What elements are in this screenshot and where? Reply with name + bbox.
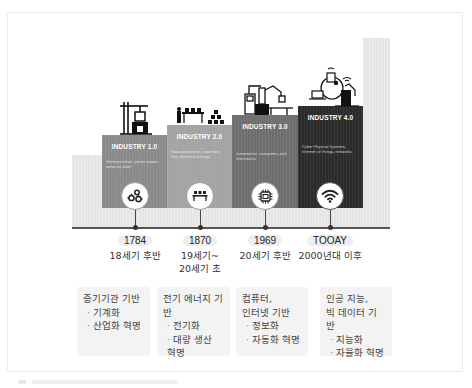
industry-1-description: Mechanization, steam power, weaving loom bbox=[106, 160, 163, 170]
year-label-2: 1870 bbox=[165, 235, 235, 246]
stage-box-4-basis-line-1: 인공 지능, bbox=[326, 292, 386, 306]
iot-network-illustration bbox=[305, 66, 361, 108]
stage-box-4-basis-line-2: 빅 데이터 기반 bbox=[326, 306, 386, 333]
stage-box-4-bullet-2: 자율화 혁명 bbox=[326, 346, 386, 360]
year-1: 1784 bbox=[118, 235, 152, 246]
year-4: TOOAY bbox=[307, 235, 353, 246]
wifi-icon bbox=[321, 189, 339, 203]
era-label-2-line-2: 20세기 초 bbox=[160, 262, 240, 275]
footer-caption-placeholder bbox=[18, 380, 178, 384]
node-industry-1 bbox=[121, 182, 149, 210]
assembly-line-icon bbox=[192, 190, 208, 202]
industry-3-description: Automation, computers and electronics bbox=[236, 152, 294, 162]
industry-2-description: Mass production, assembly line, electric… bbox=[171, 150, 228, 160]
stage-box-1: 증기기관 기반 기계화 산업화 혁명 bbox=[77, 287, 150, 356]
stage-box-3-basis-line-2: 인터넷 기반 bbox=[242, 306, 302, 320]
base-step-right bbox=[363, 38, 390, 228]
stage-box-3: 컴퓨터, 인터넷 기반 정보화 자동화 혁명 bbox=[236, 287, 308, 356]
stage-box-2: 전기 에너지 기반 전기화 대량 생산 혁명 bbox=[157, 287, 230, 356]
stage-box-1-bullet-1: 기계화 bbox=[83, 306, 144, 320]
stage-box-2-bullet-2: 대량 생산 혁명 bbox=[163, 333, 224, 360]
stage-box-1-bullet-2: 산업화 혁명 bbox=[83, 319, 144, 333]
industry-4-description: Cyber Physical Systems, internet of thin… bbox=[302, 145, 359, 155]
robot-arm-illustration bbox=[243, 82, 295, 116]
steam-crane-illustration bbox=[118, 98, 154, 136]
stage-box-2-basis: 전기 에너지 기반 bbox=[163, 293, 223, 318]
year-label-1: 1784 bbox=[100, 235, 170, 246]
stage-box-1-basis: 증기기관 기반 bbox=[83, 293, 140, 304]
stage-box-4-bullet-1: 지능화 bbox=[326, 333, 386, 347]
stage-box-3-bullet-2: 자동화 혁명 bbox=[242, 333, 302, 347]
era-label-4: 2000년대 이후 bbox=[290, 249, 370, 262]
industry-4-title: INDUSTRY 4.0 bbox=[304, 114, 356, 121]
year-2: 1870 bbox=[183, 235, 217, 246]
base-step-middle bbox=[102, 208, 364, 228]
industry-2-title: INDUSTRY 2.0 bbox=[173, 133, 225, 140]
microchip-icon bbox=[258, 189, 273, 204]
node-industry-4 bbox=[316, 182, 344, 210]
timeline-dot-3 bbox=[263, 225, 268, 230]
stage-box-3-bullet-1: 정보화 bbox=[242, 319, 302, 333]
timeline-dot-4 bbox=[328, 225, 333, 230]
stage-box-2-bullet-1: 전기화 bbox=[163, 319, 224, 333]
gears-icon bbox=[127, 189, 143, 203]
node-industry-3 bbox=[251, 182, 279, 210]
timeline-dot-1 bbox=[133, 225, 138, 230]
year-label-3: 1969 bbox=[230, 235, 300, 246]
stage-box-3-basis-line-1: 컴퓨터, bbox=[242, 292, 302, 306]
assembly-line-illustration bbox=[175, 106, 225, 124]
year-label-4: TOOAY bbox=[295, 235, 365, 246]
timeline-line bbox=[72, 227, 390, 229]
stage-box-4: 인공 지능, 빅 데이터 기반 지능화 자율화 혁명 bbox=[320, 287, 392, 356]
industry-1-title: INDUSTRY 1.0 bbox=[108, 143, 160, 150]
node-industry-2 bbox=[186, 182, 214, 210]
industry-3-title: INDUSTRY 3.0 bbox=[238, 123, 291, 130]
timeline-dot-2 bbox=[198, 225, 203, 230]
year-3: 1969 bbox=[248, 235, 282, 246]
base-step-left bbox=[72, 155, 102, 228]
